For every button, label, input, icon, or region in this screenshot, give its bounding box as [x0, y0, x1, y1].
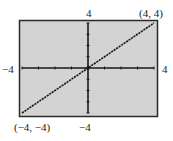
y-max-label: 4: [86, 8, 92, 19]
x-max-label: 4: [162, 64, 168, 75]
y-min-label: −4: [79, 122, 91, 133]
point-label-neg4-neg4: (−4, −4): [14, 122, 50, 133]
point-label-4-4: (4, 4): [139, 8, 163, 19]
graph-window: [0, 0, 173, 141]
x-min-label: −4: [2, 64, 14, 75]
origin-point: [86, 66, 90, 70]
